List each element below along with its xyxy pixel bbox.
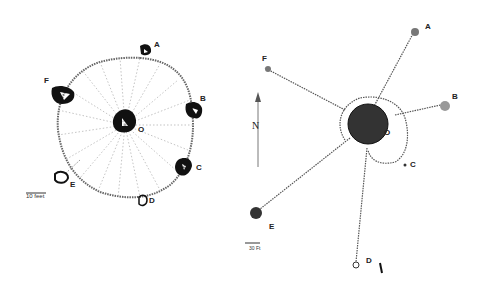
left-scale-label: 10 feet	[26, 193, 44, 199]
right-mark-d	[380, 263, 382, 273]
left-label-o: O	[138, 125, 144, 134]
right-feature-a	[411, 28, 419, 36]
right-label-d: D	[366, 256, 372, 265]
diagram-canvas	[0, 0, 483, 292]
right-features	[250, 28, 450, 273]
right-center-mound	[348, 104, 388, 144]
right-label-c: C	[410, 160, 416, 169]
right-label-f: F	[262, 54, 267, 63]
right-feature-c	[404, 164, 407, 167]
left-label-f: F	[44, 76, 49, 85]
right-feature-f	[265, 66, 271, 72]
left-label-a: A	[154, 40, 160, 49]
right-label-e: E	[269, 222, 274, 231]
right-feature-e	[250, 207, 262, 219]
left-feature-e	[55, 172, 68, 183]
left-feature-a	[140, 44, 151, 55]
right-label-b: B	[452, 92, 458, 101]
right-scale-label: 30 Ft	[249, 245, 260, 251]
right-path-d	[356, 148, 367, 262]
right-path-f	[265, 68, 345, 110]
north-label: N	[252, 120, 259, 131]
right-path-e	[255, 138, 350, 213]
right-label-a: A	[425, 22, 431, 31]
left-label-b: B	[200, 94, 206, 103]
left-feature-b	[185, 102, 202, 118]
right-label-o: O	[384, 128, 390, 137]
right-feature-b	[440, 101, 450, 111]
left-label-e: E	[70, 180, 75, 189]
left-label-c: C	[196, 163, 202, 172]
left-center-feature	[113, 109, 136, 132]
right-feature-d	[353, 262, 359, 268]
right-diagram	[255, 30, 445, 262]
left-label-d: D	[149, 196, 155, 205]
